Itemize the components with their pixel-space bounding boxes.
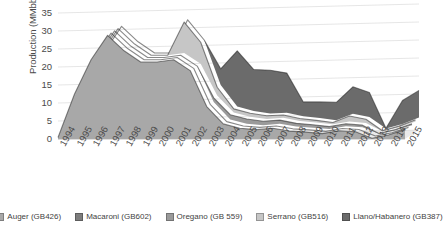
legend-swatch-icon	[342, 213, 350, 221]
stacked-areas	[58, 20, 419, 139]
legend-swatch-icon	[75, 213, 83, 221]
legend-label: Serrano (GB516)	[267, 213, 328, 221]
legend-item[interactable]: Serrano (GB516)	[249, 213, 335, 221]
legend-item[interactable]: Llano/Habanero (GB387)	[335, 213, 447, 221]
legend-label: Auger (GB426)	[7, 213, 61, 221]
legend-item[interactable]: Auger (GB426)	[0, 213, 68, 221]
legend-swatch-icon	[0, 213, 4, 221]
chart-legend: Auger (GB426)Macaroni (GB602)Oregano (GB…	[0, 208, 439, 226]
legend-label: Llano/Habanero (GB387)	[353, 213, 442, 221]
legend-label: Oregano (GB 559)	[177, 213, 243, 221]
legend-item[interactable]: Macaroni (GB602)	[68, 213, 158, 221]
legend-label: Macaroni (GB602)	[86, 213, 151, 221]
legend-swatch-icon	[166, 213, 174, 221]
legend-item[interactable]: Oregano (GB 559)	[159, 213, 250, 221]
legend-swatch-icon	[256, 213, 264, 221]
